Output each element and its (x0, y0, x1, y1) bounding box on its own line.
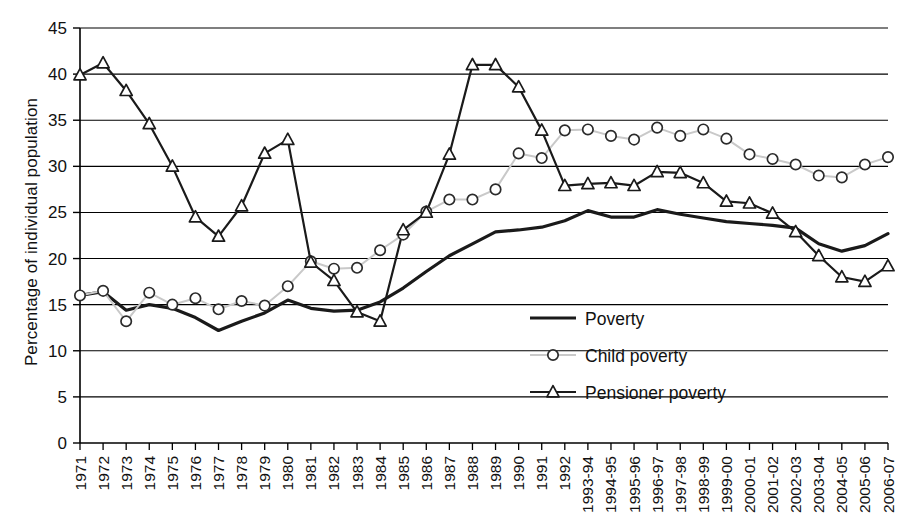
y-tick-label-0: 0 (58, 434, 67, 453)
y-tick-label-20: 20 (48, 250, 67, 269)
x-tick-label-29: 2000-01 (741, 456, 758, 513)
legend-label-1: Child poverty (585, 346, 687, 366)
data-point-circle (259, 300, 269, 310)
data-point-circle (329, 264, 339, 274)
y-tick-label-15: 15 (48, 296, 67, 315)
y-tick-label-5: 5 (58, 388, 67, 407)
x-tick-label-10: 1981 (302, 456, 319, 490)
x-tick-label-6: 1977 (210, 456, 227, 490)
x-tick-label-13: 1984 (372, 456, 389, 491)
data-point-triangle (259, 147, 271, 158)
x-tick-label-0: 1971 (72, 456, 89, 490)
series-line (80, 63, 888, 321)
y-tick-label-45: 45 (48, 19, 67, 38)
data-point-circle (375, 245, 385, 255)
data-point-circle (444, 194, 454, 204)
x-tick-label-15: 1986 (418, 456, 435, 490)
data-point-circle (490, 184, 500, 194)
x-tick-label-3: 1974 (141, 456, 158, 491)
data-point-triangle (882, 260, 894, 271)
x-tick-label-35: 2006-07 (880, 456, 897, 513)
y-tick-label-10: 10 (48, 342, 67, 361)
x-tick-label-33: 2004-05 (833, 456, 850, 513)
x-tick-label-5: 1976 (187, 456, 204, 490)
data-point-triangle (97, 57, 109, 68)
markers-pensioner-poverty (74, 57, 894, 326)
data-point-circle (75, 290, 85, 300)
data-point-circle (352, 263, 362, 273)
legend-marker-circle (548, 350, 558, 360)
data-point-circle (167, 299, 177, 309)
y-tick-label-40: 40 (48, 65, 67, 84)
data-point-triangle (536, 124, 548, 135)
x-tick-label-8: 1979 (256, 456, 273, 490)
data-point-circle (767, 154, 777, 164)
data-point-circle (883, 152, 893, 162)
data-point-circle (744, 149, 754, 159)
legend-label-2: Pensioner poverty (585, 383, 726, 403)
series-line (80, 210, 888, 331)
x-tick-label-1: 1972 (95, 456, 112, 490)
data-point-circle (213, 304, 223, 314)
data-point-triangle (236, 200, 248, 211)
x-tick-label-28: 1999-00 (718, 456, 735, 513)
data-point-triangle (166, 160, 178, 171)
x-tick-label-16: 1987 (441, 456, 458, 490)
data-point-circle (583, 124, 593, 134)
x-tick-label-20: 1991 (533, 456, 550, 490)
data-point-circle (513, 148, 523, 158)
x-tick-label-30: 2001-02 (764, 456, 781, 513)
x-tick-label-14: 1985 (395, 456, 412, 490)
x-tick-label-23: 1994-95 (602, 456, 619, 513)
y-axis-title: Percentage of individual population (22, 22, 42, 442)
data-point-circle (98, 286, 108, 296)
data-point-circle (606, 131, 616, 141)
y-tick-label-30: 30 (48, 157, 67, 176)
data-point-circle (675, 131, 685, 141)
data-point-triangle (443, 148, 455, 159)
data-point-circle (837, 172, 847, 182)
data-point-circle (236, 296, 246, 306)
data-point-circle (121, 316, 131, 326)
x-tick-label-17: 1988 (464, 456, 481, 490)
data-point-circle (721, 133, 731, 143)
x-tick-label-12: 1983 (349, 456, 366, 490)
x-tick-label-2: 1973 (118, 456, 135, 490)
data-point-circle (467, 194, 477, 204)
x-tick-label-22: 1993-94 (579, 456, 596, 513)
x-tick-label-11: 1982 (325, 456, 342, 490)
data-point-circle (537, 153, 547, 163)
chart-svg: 0510152025303540451971197219731974197519… (0, 0, 906, 532)
legend: PovertyChild povertyPensioner poverty (530, 309, 726, 403)
series-poverty (80, 210, 888, 331)
x-tick-label-9: 1980 (279, 456, 296, 491)
data-point-circle (790, 159, 800, 169)
x-tick-label-31: 2002-03 (787, 456, 804, 513)
x-tick-label-19: 1990 (510, 456, 527, 491)
x-tick-label-4: 1975 (164, 456, 181, 490)
data-point-circle (698, 124, 708, 134)
x-tick-label-24: 1995-96 (626, 456, 643, 513)
data-point-circle (629, 134, 639, 144)
data-point-circle (814, 170, 824, 180)
series-pensioner-poverty (80, 63, 888, 321)
data-point-circle (190, 293, 200, 303)
x-tick-label-18: 1989 (487, 456, 504, 490)
data-point-circle (860, 159, 870, 169)
x-tick-label-27: 1998-99 (695, 456, 712, 513)
legend-label-0: Poverty (585, 309, 645, 329)
data-point-circle (144, 287, 154, 297)
y-tick-label-35: 35 (48, 111, 67, 130)
y-tick-label-25: 25 (48, 203, 67, 222)
x-tick-label-7: 1978 (233, 456, 250, 490)
data-point-circle (283, 281, 293, 291)
data-point-circle (652, 122, 662, 132)
x-tick-label-21: 1992 (556, 456, 573, 490)
x-tick-label-34: 2005-06 (856, 456, 873, 513)
x-tick-label-32: 2003-04 (810, 456, 827, 513)
poverty-trend-chart: Percentage of individual population 0510… (0, 0, 906, 532)
x-tick-label-25: 1996-97 (649, 456, 666, 513)
data-point-circle (560, 125, 570, 135)
data-point-triangle (282, 133, 294, 144)
x-tick-label-26: 1997-98 (672, 456, 689, 513)
